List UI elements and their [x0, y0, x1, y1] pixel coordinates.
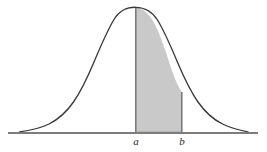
- x-axis-tick-label-a: a: [126, 136, 146, 147]
- normal-distribution-curve: [20, 7, 249, 132]
- normal-curve-figure: a b: [0, 0, 267, 152]
- shaded-area-between-a-and-b: [136, 8, 182, 134]
- x-axis-tick-label-b: b: [172, 136, 192, 147]
- shaded-area-group: [136, 8, 182, 134]
- bell-curve-chart: [0, 0, 267, 152]
